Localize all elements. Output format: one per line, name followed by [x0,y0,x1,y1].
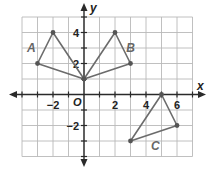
origin-label: O [73,96,82,108]
vertex-point [175,123,180,128]
x-tick-label: 4 [143,99,150,111]
shapes: ABC [26,30,179,153]
triangle-outline [131,95,178,142]
x-tick-label: −2 [47,99,60,111]
vertex-point [128,139,133,144]
y-axis-top-arrow-icon [81,3,88,11]
triangle-label: C [151,139,160,153]
x-axis-label: x [196,79,205,93]
y-tick-label: 4 [73,27,80,39]
x-axis-left-arrow-icon [9,91,17,98]
x-tick-label: 6 [174,99,180,111]
grid [22,17,193,157]
tick-marks [22,17,193,157]
vertex-point [113,30,118,35]
y-axis-bottom-arrow-icon [81,159,88,167]
vertex-point [51,30,56,35]
y-tick-label: −2 [66,120,79,132]
triangle-label: B [126,41,135,55]
triangle-c: C [128,92,179,153]
triangle-outline [84,33,131,80]
axes: x y O [9,1,206,167]
triangle-outline [38,33,85,80]
vertex-point [82,77,87,82]
triangle-b: B [82,30,136,81]
coordinate-plane: x y O −224642−2 ABC [0,0,211,176]
vertex-point [128,61,133,66]
vertex-point [159,92,164,97]
x-tick-label: 2 [112,99,118,111]
y-axis-label: y [89,1,98,15]
triangle-label: A [26,41,36,55]
vertex-point [35,61,40,66]
